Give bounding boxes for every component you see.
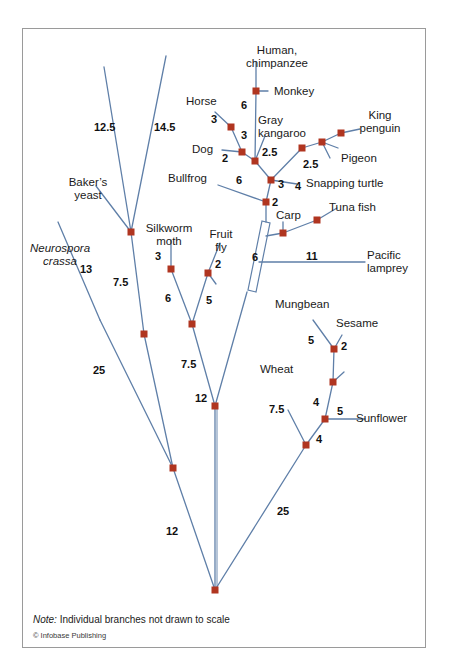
value-branch-pacific-lamprey: 11 <box>306 250 318 262</box>
label-horse: Horse <box>186 95 217 108</box>
note-prefix: Note: <box>33 614 57 625</box>
value-branch-snapping-turtle: 4 <box>295 180 301 192</box>
value-branch-bullfrog: 6 <box>236 174 242 186</box>
value-branch-human-chimp: 6 <box>241 99 247 111</box>
label-carp: Carp <box>276 209 301 222</box>
label-silkworm-moth: Silkwormmoth <box>139 222 199 247</box>
value-branch-neurospora: 14.5 <box>154 121 175 133</box>
label-sunflower: Sunflower <box>356 412 407 425</box>
value-branch-fungi-right: 7.5 <box>113 276 128 288</box>
label-human-chimpanzee: Human,chimpanzee <box>232 44 322 69</box>
note-text: Individual branches not drawn to scale <box>57 614 230 625</box>
value-branch-fish: 6 <box>252 251 258 263</box>
value-branch-plant-stem: 25 <box>277 505 289 517</box>
value-branch-moth-stem: 6 <box>165 292 171 304</box>
label-bullfrog: Bullfrog <box>168 172 207 185</box>
value-branch-fungi-stem: 25 <box>93 364 105 376</box>
label-bakers-yeast: Baker’syeast <box>60 176 116 201</box>
value-branch-bird-reptile: 3 <box>278 178 284 190</box>
label-mungbean: Mungbean <box>275 298 329 311</box>
value-branch-seed-plant: 4 <box>313 396 319 408</box>
value-branch-insect-stem: 7.5 <box>181 358 196 370</box>
label-snapping-turtle: Snapping turtle <box>306 177 383 190</box>
figure-note: Note: Individual branches not drawn to s… <box>33 614 230 625</box>
value-branch-tetrapod: 2 <box>272 196 278 208</box>
value-branch-fly-stem: 5 <box>206 294 212 306</box>
value-branch-dog: 2 <box>222 152 228 164</box>
value-branch-horse: 3 <box>211 113 217 125</box>
label-dog: Dog <box>192 143 213 156</box>
figure-canvas: Human,chimpanzee Monkey Horse Dog Grayka… <box>0 0 449 672</box>
value-branch-dog-upper: 3 <box>241 129 247 141</box>
label-fruit-fly: Fruitfly <box>200 228 242 253</box>
value-branch-silkworm-moth: 3 <box>155 250 161 262</box>
copyright-credit: © Infobase Publishing <box>33 631 106 640</box>
label-monkey: Monkey <box>274 85 314 98</box>
value-branch-sunflower: 5 <box>337 405 343 417</box>
value-branch-animal-stem: 12 <box>195 392 207 404</box>
value-branch-fruit-fly: 2 <box>215 258 221 270</box>
label-tuna-fish: Tuna fish <box>329 201 376 214</box>
value-branch-pigeon: 2.5 <box>303 158 318 170</box>
value-branch-sesame: 2 <box>341 340 347 352</box>
label-pigeon: Pigeon <box>341 152 377 165</box>
value-branch-bakers-yeast: 12.5 <box>94 121 115 133</box>
value-branch-gray-kangaroo: 2.5 <box>262 146 277 158</box>
value-branch-wheat: 7.5 <box>269 403 284 415</box>
label-wheat: Wheat <box>260 363 293 376</box>
label-gray-kangaroo: Graykangaroo <box>258 114 306 139</box>
label-pacific-lamprey: Pacificlamprey <box>367 249 408 274</box>
label-sesame: Sesame <box>336 317 378 330</box>
label-king-penguin: Kingpenguin <box>349 109 411 134</box>
value-branch-fungi-root: 12 <box>166 525 178 537</box>
value-branch-plant-node: 4 <box>316 433 322 445</box>
value-branch-fungi-left: 13 <box>80 263 92 275</box>
value-branch-mungbean: 5 <box>308 334 314 346</box>
